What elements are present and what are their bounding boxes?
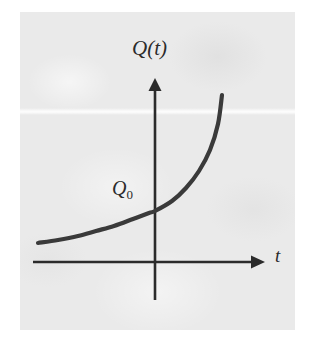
initial-value-base: Q <box>112 177 126 199</box>
horizontal-axis-label: t <box>275 246 280 265</box>
vertical-axis-label: Q(t) <box>132 38 167 59</box>
initial-value-label: Q0 <box>112 178 133 201</box>
initial-value-subscript: 0 <box>126 187 133 202</box>
arrow-up-icon <box>149 78 162 91</box>
arrow-right-icon <box>251 256 265 269</box>
figure-root: Q(t) Q0 t <box>0 0 310 343</box>
exponential-growth-curve <box>38 95 222 243</box>
